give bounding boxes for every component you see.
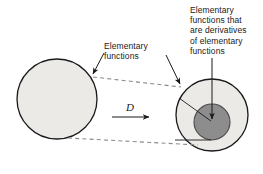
leader-line-right-set: [166, 55, 180, 84]
diagram-canvas: Elementary functions Elementary function…: [0, 0, 263, 174]
label-elementary-functions: Elementary functions: [104, 41, 148, 61]
leader-line-left-set: [93, 53, 104, 74]
label-operator-d: D: [126, 101, 134, 113]
lower-tangent-dashed-line: [68, 138, 198, 145]
upper-tangent-dashed-line: [93, 77, 181, 87]
label-derivatives-of-elementary-functions: Elementary functions that are derivative…: [190, 5, 247, 56]
left-circle-elementary-functions: [17, 59, 97, 139]
